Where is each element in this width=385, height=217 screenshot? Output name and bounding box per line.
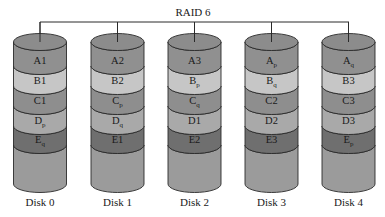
disk-label: Disk 0 xyxy=(25,196,55,208)
disk-1: A2B2CpDqE1Disk 1 xyxy=(91,22,144,208)
block-label: D3 xyxy=(342,115,355,126)
raid6-diagram: RAID 6 A1B1C1DpEqDisk 0A2B2CpDqE1Disk 1A… xyxy=(0,0,385,217)
disk-label: Disk 2 xyxy=(180,196,209,208)
block-label: C3 xyxy=(342,95,354,106)
block-label: C1 xyxy=(34,95,46,106)
diagram-title: RAID 6 xyxy=(175,6,211,18)
disk-2: A3BpCqD1E2Disk 2 xyxy=(168,22,221,208)
block-label: A3 xyxy=(188,55,201,66)
disk-4: AqB3C3D3EpDisk 4 xyxy=(322,22,375,208)
disk-label: Disk 1 xyxy=(103,196,132,208)
block-label: E2 xyxy=(189,134,201,145)
block-label: D2 xyxy=(265,115,278,126)
block-label: A1 xyxy=(34,55,47,66)
block-label: A2 xyxy=(111,55,124,66)
disk-label: Disk 3 xyxy=(257,196,287,208)
block-label: E1 xyxy=(112,134,124,145)
block-label: B3 xyxy=(342,75,354,86)
block-label: E3 xyxy=(266,134,278,145)
block-label: B1 xyxy=(34,75,46,86)
block-label: B2 xyxy=(111,75,123,86)
disk-3: ApBqC2D2E3Disk 3 xyxy=(245,22,298,208)
disk-label: Disk 4 xyxy=(334,196,364,208)
disk-array: A1B1C1DpEqDisk 0A2B2CpDqE1Disk 1A3BpCqD1… xyxy=(14,22,376,208)
disk-0: A1B1C1DpEqDisk 0 xyxy=(14,22,67,208)
block-label: C2 xyxy=(265,95,277,106)
block-label: D1 xyxy=(188,115,201,126)
